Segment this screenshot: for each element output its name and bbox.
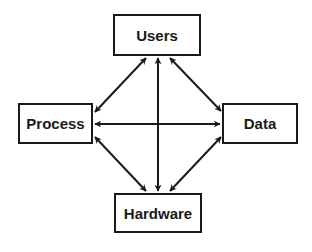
node-process: Process — [18, 103, 93, 144]
node-users: Users — [113, 14, 201, 56]
edge-users-process-arrow — [95, 58, 146, 112]
diagram-canvas: Users Process Data Hardware — [0, 0, 312, 252]
edge-users-data-arrow — [170, 58, 221, 111]
node-hardware: Hardware — [114, 193, 202, 233]
node-hardware-label: Hardware — [124, 205, 192, 222]
edge-process-hardware-arrow — [95, 137, 146, 191]
edge-data-hardware-arrow — [170, 137, 221, 191]
node-users-label: Users — [136, 27, 178, 44]
node-data-label: Data — [244, 115, 277, 132]
node-process-label: Process — [26, 115, 84, 132]
node-data: Data — [222, 103, 298, 144]
